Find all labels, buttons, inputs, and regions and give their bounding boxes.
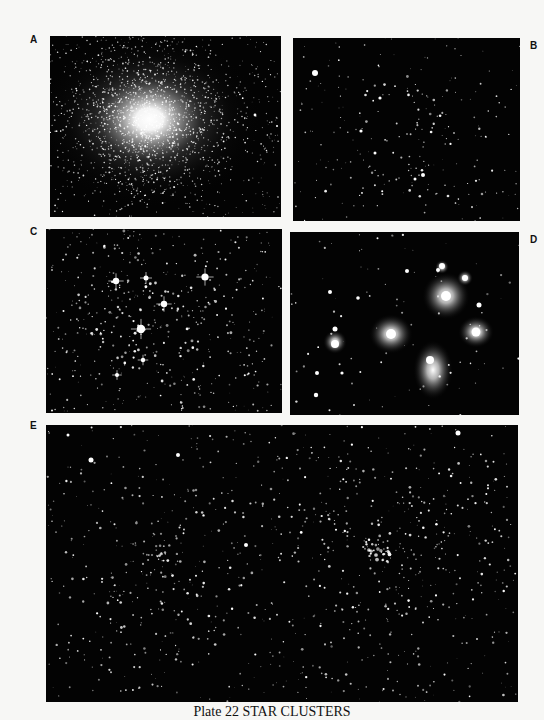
double-cluster-image (46, 425, 518, 702)
panel-label-c: C (30, 226, 37, 237)
open-cluster-sparse-image (293, 38, 520, 221)
open-cluster-dense-image (46, 229, 282, 413)
photo-panel-e-double-cluster (46, 425, 518, 702)
globular-cluster-image (50, 36, 281, 217)
panel-label-d: D (530, 234, 537, 245)
panel-label-b: B (530, 40, 537, 51)
photo-panel-a-globular-cluster (50, 36, 281, 217)
photo-panel-b-open-cluster (293, 38, 520, 221)
photo-panel-d-pleiades (290, 232, 519, 415)
panel-label-e: E (30, 420, 37, 431)
plate-caption: Plate 22 STAR CLUSTERS (0, 704, 544, 720)
pleiades-nebula-image (290, 232, 519, 415)
panel-label-a: A (30, 34, 37, 45)
photo-panel-c-open-cluster (46, 229, 282, 413)
